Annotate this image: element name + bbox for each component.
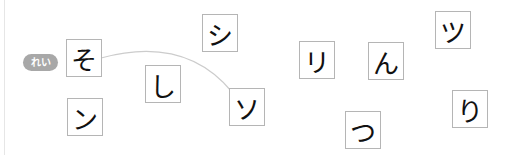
card-so-katakana[interactable]: ソ — [229, 88, 265, 126]
card-n-hiragana[interactable]: ん — [368, 42, 404, 80]
card-tsu-hiragana[interactable]: つ — [345, 111, 381, 149]
card-so-hiragana[interactable]: そ — [66, 39, 102, 77]
card-tsu-katakana[interactable]: ツ — [435, 11, 471, 49]
card-n-katakana[interactable]: ン — [67, 98, 103, 136]
card-shi-katakana[interactable]: シ — [202, 14, 238, 52]
card-shi-hiragana[interactable]: し — [145, 65, 181, 103]
card-ri-katakana[interactable]: リ — [299, 41, 335, 79]
card-ri-hiragana[interactable]: り — [452, 90, 488, 128]
